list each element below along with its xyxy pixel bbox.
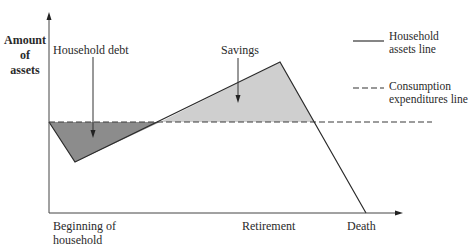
x-tick-beginning-line2: household	[53, 233, 116, 245]
legend-consumption-expenditures-line: Consumption expenditures line	[389, 80, 468, 106]
savings-annotation: Savings	[221, 43, 259, 57]
x-tick-beginning-line1: Beginning of	[53, 219, 116, 233]
legend-assets-line2: assets line	[389, 43, 439, 56]
y-axis-arrow-icon	[47, 12, 52, 20]
x-tick-retirement: Retirement	[242, 219, 295, 233]
legend-household-assets-line: Household assets line	[389, 30, 439, 56]
x-tick-beginning-of-household: Beginning of household	[53, 219, 116, 245]
x-tick-death: Death	[347, 219, 376, 233]
y-axis-label-line3: assets	[4, 63, 46, 78]
legend-consumption-line1: Consumption	[389, 80, 468, 93]
x-axis-arrow-icon	[395, 211, 403, 216]
legend-consumption-line2: expenditures line	[389, 93, 468, 106]
y-axis-label-line2: of	[4, 48, 46, 63]
y-axis-label: Amount of assets	[4, 33, 46, 78]
household-debt-annotation: Household debt	[53, 43, 129, 57]
legend-assets-line1: Household	[389, 30, 439, 43]
savings-region	[160, 62, 314, 122]
y-axis-label-line1: Amount	[4, 33, 46, 48]
